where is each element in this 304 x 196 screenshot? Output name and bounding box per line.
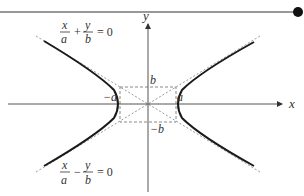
svg-text:y: y bbox=[84, 18, 91, 32]
svg-text:+: + bbox=[74, 25, 81, 39]
label-neg-a: −a bbox=[103, 90, 117, 104]
label-a: a bbox=[177, 90, 183, 104]
svg-text:b: b bbox=[85, 32, 91, 46]
svg-text:−: − bbox=[74, 165, 81, 179]
svg-text:x: x bbox=[61, 158, 68, 172]
svg-text:= 0: = 0 bbox=[97, 165, 113, 179]
svg-text:= 0: = 0 bbox=[97, 25, 113, 39]
svg-text:a: a bbox=[61, 173, 67, 187]
hyperbola-diagram: x y b −b a −a x a + y b = 0 x a − y b = … bbox=[0, 0, 304, 196]
svg-text:x: x bbox=[61, 18, 68, 32]
bottom-asymptote-equation: x a − y b = 0 bbox=[60, 158, 113, 187]
label-neg-b: −b bbox=[150, 122, 164, 136]
svg-text:y: y bbox=[84, 158, 91, 172]
label-b: b bbox=[150, 73, 156, 87]
svg-text:a: a bbox=[61, 32, 67, 46]
x-axis-label: x bbox=[288, 96, 295, 111]
y-axis-label: y bbox=[141, 8, 149, 23]
top-asymptote-equation: x a + y b = 0 bbox=[60, 18, 113, 46]
rule-end-dot bbox=[293, 7, 303, 17]
svg-text:b: b bbox=[85, 173, 91, 187]
